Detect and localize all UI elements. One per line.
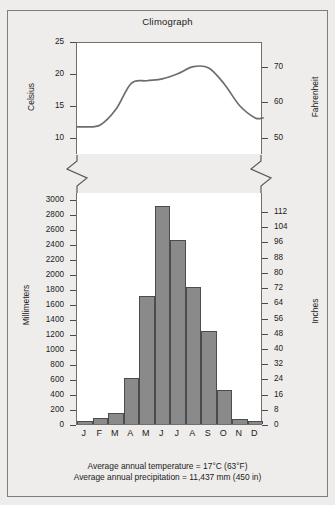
axis-tick-mark (70, 106, 76, 107)
axis-tick-mark (262, 227, 268, 228)
axis-tick-label: 0 (0, 421, 64, 429)
axis-tick-mark (70, 410, 76, 411)
axis-tick-mark (262, 273, 268, 274)
axis-tick-label: 2000 (0, 271, 64, 279)
axis-tick-mark (70, 350, 76, 351)
month-label: J (76, 428, 92, 438)
axis-tick-label: 72 (274, 284, 314, 292)
fahrenheit-axis-title: Fahrenheit (310, 77, 320, 118)
precipitation-bar (77, 421, 93, 424)
axis-tick-label: 8 (274, 406, 314, 414)
axis-tick-label: 600 (0, 376, 64, 384)
axis-tick-mark (262, 138, 268, 139)
axis-tick-mark (70, 320, 76, 321)
caption-temperature: Average annual temperature = 17°C (63°F) (0, 461, 335, 471)
axis-tick-mark (262, 395, 268, 396)
precipitation-bar-group (77, 193, 261, 424)
month-label: A (122, 428, 138, 438)
month-label: D (246, 428, 262, 438)
axis-tick-mark (262, 242, 268, 243)
axis-tick-mark (70, 138, 76, 139)
axis-tick-mark (70, 200, 76, 201)
axis-tick-mark (70, 215, 76, 216)
page-title: Climograph (0, 16, 335, 27)
caption-precipitation: Average annual precipitation = 11,437 mm… (0, 472, 335, 482)
axis-tick-mark (70, 245, 76, 246)
precipitation-bar (139, 296, 155, 424)
axis-tick-mark (70, 380, 76, 381)
axis-tick-mark (262, 319, 268, 320)
month-label: O (215, 428, 231, 438)
right-axis-break-icon (246, 155, 276, 193)
axis-tick-label: 1400 (0, 316, 64, 324)
axis-tick-mark (262, 102, 268, 103)
temperature-curve-svg (77, 43, 263, 155)
temperature-line (77, 66, 263, 127)
axis-tick-label: 200 (0, 406, 64, 414)
month-label: M (138, 428, 154, 438)
axis-tick-mark (262, 410, 268, 411)
climograph-figure: Climograph Celsius Fahrenheit 25201510 7… (0, 0, 335, 505)
axis-tick-label: 80 (274, 269, 314, 277)
axis-tick-label: 112 (274, 208, 314, 216)
axis-tick-mark (262, 212, 268, 213)
month-label: J (169, 428, 185, 438)
precipitation-bar (108, 413, 124, 424)
precipitation-bar (232, 419, 248, 424)
axis-tick-label: 60 (274, 98, 314, 106)
month-label: A (184, 428, 200, 438)
axis-tick-mark (262, 67, 268, 68)
axis-tick-label: 48 (274, 330, 314, 338)
axis-tick-label: 400 (0, 391, 64, 399)
axis-tick-mark (262, 288, 268, 289)
precipitation-bar (248, 421, 264, 424)
precipitation-bar (170, 240, 186, 424)
axis-tick-mark (70, 74, 76, 75)
axis-tick-label: 16 (274, 391, 314, 399)
precipitation-bar (124, 378, 140, 424)
axis-tick-label: 50 (274, 134, 314, 142)
axis-tick-mark (70, 275, 76, 276)
axis-tick-label: 3000 (0, 196, 64, 204)
precipitation-plot-area (76, 193, 262, 425)
axis-tick-label: 104 (274, 223, 314, 231)
axis-tick-label: 40 (274, 345, 314, 353)
axis-tick-label: 2800 (0, 211, 64, 219)
axis-tick-mark (70, 260, 76, 261)
axis-tick-mark (262, 303, 268, 304)
axis-tick-mark (262, 364, 268, 365)
axis-tick-label: 800 (0, 361, 64, 369)
axis-tick-label: 0 (274, 421, 314, 429)
axis-tick-mark (262, 349, 268, 350)
month-label: J (153, 428, 169, 438)
axis-tick-label: 2600 (0, 226, 64, 234)
axis-tick-mark (70, 335, 76, 336)
axis-tick-label: 25 (0, 38, 64, 46)
month-label: M (107, 428, 123, 438)
temperature-plot-area (76, 42, 262, 154)
precipitation-bar (217, 390, 233, 424)
axis-tick-label: 15 (0, 102, 64, 110)
axis-tick-mark (70, 42, 76, 43)
axis-tick-mark (70, 305, 76, 306)
axis-tick-label: 1000 (0, 346, 64, 354)
axis-tick-mark (262, 379, 268, 380)
axis-tick-mark (70, 425, 76, 426)
month-label: N (231, 428, 247, 438)
month-label: F (91, 428, 107, 438)
left-axis-break-icon (62, 155, 92, 193)
axis-tick-label: 1200 (0, 331, 64, 339)
axis-tick-label: 10 (0, 134, 64, 142)
axis-tick-label: 20 (0, 70, 64, 78)
axis-tick-mark (70, 290, 76, 291)
axis-tick-label: 64 (274, 299, 314, 307)
precipitation-bar (155, 206, 171, 424)
axis-tick-label: 88 (274, 254, 314, 262)
axis-tick-mark (262, 258, 268, 259)
axis-tick-mark (262, 425, 268, 426)
axis-tick-label: 1800 (0, 286, 64, 294)
axis-tick-label: 2200 (0, 256, 64, 264)
precipitation-bar (186, 287, 202, 424)
axis-tick-mark (70, 365, 76, 366)
axis-tick-label: 70 (274, 63, 314, 71)
